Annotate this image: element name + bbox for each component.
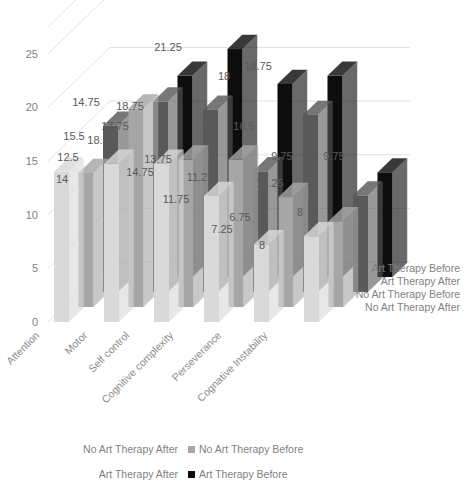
plot-top-edge	[48, 0, 410, 27]
chart-canvas: 0510152025 1412.515.514.7518.517.7518.75…	[0, 0, 467, 494]
data-label: 15.5	[63, 130, 84, 142]
y-tick-label: 0	[32, 316, 38, 328]
legend-label-art-therapy-after: Art Therapy After	[99, 468, 179, 480]
category-label-attention: Attention	[4, 329, 42, 367]
data-label: 6.75	[229, 211, 250, 223]
data-label: 9.75	[323, 150, 344, 162]
bar-front-face	[254, 244, 269, 322]
data-label: 9	[311, 185, 317, 197]
depth-axis-label-2: No Art Therapy Before	[356, 288, 460, 300]
bar-no-art-therapy-after-cognative-instability	[304, 222, 334, 322]
bar-no-art-therapy-after-cognitive-complexity	[204, 182, 234, 322]
y-tick-label: 10	[26, 209, 38, 221]
bar-side-face	[169, 150, 184, 322]
bar-front-face	[154, 164, 169, 322]
data-label: 8	[297, 206, 303, 218]
bar-front-face	[204, 196, 219, 322]
data-label: 9.75	[271, 150, 292, 162]
data-label: 14	[56, 173, 68, 185]
bar-side-face	[319, 222, 334, 322]
chart-container: 0510152025 1412.515.514.7518.517.7518.75…	[0, 0, 467, 494]
depth-axis-label-0: Art Therapy Before	[371, 262, 460, 274]
bar-side-face	[269, 230, 284, 322]
depth-axis-labels: Art Therapy BeforeArt Therapy AfterNo Ar…	[356, 262, 461, 313]
category-label-cognitive-complexity: Cognitive complexity	[99, 328, 176, 405]
depth-axis-label-1: Art Therapy After	[381, 275, 461, 287]
data-label: 11.75	[163, 193, 190, 205]
data-label: 21.25	[154, 41, 182, 53]
legend-swatch-art-therapy-before	[188, 471, 195, 478]
legend-label-art-therapy-before: Art Therapy Before	[199, 468, 288, 480]
legend-swatch-no-art-therapy-before	[188, 446, 195, 453]
legend-label-no-art-therapy-before: No Art Therapy Before	[199, 443, 303, 455]
y-tick-label: 15	[26, 155, 38, 167]
y-tick-label: 25	[26, 48, 38, 60]
data-label: 18	[218, 70, 230, 82]
y-tick-label: 5	[32, 262, 38, 274]
bar-side-face	[69, 158, 84, 322]
data-label: 11.25	[187, 171, 214, 183]
data-label: 17.75	[101, 120, 129, 132]
bar-side-face	[393, 158, 408, 277]
category-label-self-control: Self control	[86, 329, 132, 375]
data-label: 7.25	[211, 223, 232, 235]
bar-front-face	[304, 236, 319, 322]
data-label: 16.5	[233, 120, 254, 132]
chart-legend: No Art Therapy AfterNo Art Therapy Befor…	[83, 443, 303, 480]
data-label: 18.5	[87, 134, 108, 146]
bar-side-face	[219, 182, 234, 322]
data-label: 18.75	[244, 60, 272, 72]
data-label: 12.5	[57, 151, 78, 163]
data-label: 17	[202, 112, 214, 124]
data-label: 14.75	[72, 96, 100, 108]
bar-no-art-therapy-after-self-control	[154, 150, 184, 322]
y-axis-tick-labels: 0510152025	[26, 48, 38, 328]
depth-axis-label-3: No Art Therapy After	[365, 301, 460, 313]
bar-series-group	[54, 35, 407, 322]
gridline-25	[48, 0, 410, 54]
bar-front-face	[54, 172, 69, 322]
bar-front-face	[104, 164, 119, 322]
category-axis-labels: AttentionMotorSelf controlCognitive comp…	[4, 328, 270, 405]
legend-label-no-art-therapy-after: No Art Therapy After	[83, 443, 178, 455]
category-label-motor: Motor	[62, 329, 90, 357]
data-label: 13.75	[144, 153, 172, 165]
data-label: 14.75	[126, 166, 154, 178]
data-label: 8	[259, 239, 265, 251]
data-label: 10.25	[256, 177, 284, 189]
data-label: 18.75	[116, 100, 144, 112]
y-tick-label: 20	[26, 101, 38, 113]
